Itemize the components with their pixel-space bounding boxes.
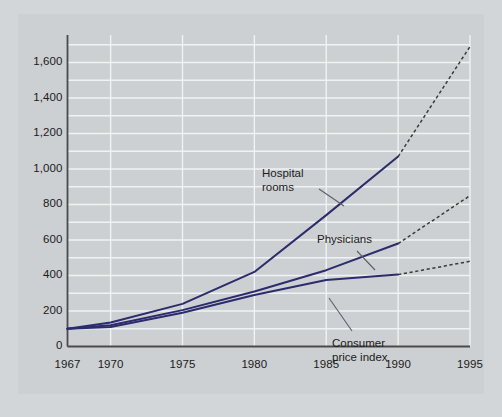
y-tick-label: 1,000 (33, 162, 62, 174)
y-tick-label: 1,600 (33, 55, 62, 67)
series-label-line: Hospital (262, 166, 304, 180)
series-label-hospital-rooms: Hospitalrooms (262, 166, 304, 194)
y-tick-label: 400 (43, 268, 63, 280)
annotation-leader-lines (319, 189, 375, 331)
y-tick-label: 0 (56, 339, 63, 351)
series-label-line: Consumer (332, 336, 388, 350)
y-tick-label: 600 (43, 233, 63, 245)
line-chart-canvas (0, 0, 502, 417)
y-tick-label: 800 (43, 197, 63, 209)
x-tick-label: 1975 (153, 358, 213, 370)
x-tick-label: 1995 (440, 358, 500, 370)
series-label-line: price index (332, 350, 388, 364)
y-tick-label: 1,200 (33, 126, 62, 138)
y-tick-label: 200 (43, 304, 63, 316)
series-label-line: rooms (262, 180, 304, 194)
series-label-physicians: Physicians (317, 232, 372, 246)
y-tick-label: 1,400 (33, 91, 62, 103)
x-tick-label: 1970 (81, 358, 141, 370)
x-tick-label: 1980 (224, 358, 284, 370)
series-label-line: Physicians (317, 232, 372, 246)
series-label-consumer-price-index: Consumerprice index (332, 336, 388, 364)
chart-figure: 02004006008001,0001,2001,4001,600 196719… (0, 0, 502, 417)
